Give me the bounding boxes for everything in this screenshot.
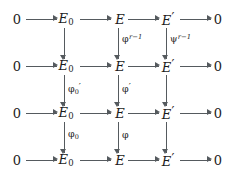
arrow-row2-eprime-to-zero bbox=[180, 62, 211, 70]
node-row4-zero-right: 0 bbox=[214, 154, 222, 167]
node-row2-e0: E0 bbox=[58, 59, 73, 74]
arrow-gap3-col-eprime bbox=[162, 122, 170, 153]
node-row2-e: E bbox=[115, 60, 125, 73]
arrow-row1-eprime-to-zero bbox=[180, 15, 211, 23]
arrow-gap2-col-e0 bbox=[60, 75, 68, 106]
label-gap1-col-e: φr−1 bbox=[122, 34, 142, 44]
arrow-row3-eprime-to-zero bbox=[180, 109, 211, 117]
node-row4-eprime: E′ bbox=[162, 152, 175, 167]
arrow-gap1-col-e0 bbox=[60, 28, 68, 59]
node-row4-e: E bbox=[115, 154, 125, 167]
commutative-diagram: 0 E0 E E′ 0 φr−1 ψr−1 0 E0 E E′ 0 φ0′ φ′… bbox=[0, 0, 229, 182]
label-gap2-col-e0: φ0′ bbox=[68, 82, 81, 95]
arrow-gap2-col-eprime bbox=[162, 75, 170, 106]
arrow-gap1-col-e bbox=[114, 28, 122, 59]
arrow-gap2-col-e bbox=[114, 75, 122, 106]
node-row1-eprime: E′ bbox=[162, 11, 175, 26]
label-gap2-col-e: φ′ bbox=[122, 82, 131, 93]
node-row1-e0: E0 bbox=[58, 12, 73, 27]
arrow-row4-zero-to-e0 bbox=[26, 156, 57, 164]
arrow-row3-e0-to-e bbox=[80, 109, 111, 117]
node-row4-e0: E0 bbox=[58, 153, 73, 168]
label-gap1-col-eprime: ψr−1 bbox=[170, 34, 191, 44]
arrow-row4-eprime-to-zero bbox=[180, 156, 211, 164]
node-row2-zero-right: 0 bbox=[214, 60, 222, 73]
arrow-gap3-col-e bbox=[114, 122, 122, 153]
arrow-gap3-col-e0 bbox=[60, 122, 68, 153]
label-gap3-col-e0: φ0 bbox=[68, 129, 79, 140]
arrow-row3-zero-to-e0 bbox=[26, 109, 57, 117]
arrow-row4-e-to-eprime bbox=[128, 156, 159, 164]
node-row3-e0: E0 bbox=[58, 106, 73, 121]
node-row3-e: E bbox=[115, 107, 125, 120]
arrow-row3-e-to-eprime bbox=[128, 109, 159, 117]
arrow-row1-zero-to-e0 bbox=[26, 15, 57, 23]
node-row1-zero-left: 0 bbox=[13, 13, 21, 26]
node-row2-zero-left: 0 bbox=[13, 60, 21, 73]
node-row3-eprime: E′ bbox=[162, 105, 175, 120]
arrow-gap1-col-eprime bbox=[162, 28, 170, 59]
arrow-row2-e-to-eprime bbox=[128, 62, 159, 70]
arrow-row1-e0-to-e bbox=[80, 15, 111, 23]
node-row1-zero-right: 0 bbox=[214, 13, 222, 26]
arrow-row2-e0-to-e bbox=[80, 62, 111, 70]
arrow-row1-e-to-eprime bbox=[128, 15, 159, 23]
node-row2-eprime: E′ bbox=[162, 58, 175, 73]
node-row4-zero-left: 0 bbox=[13, 154, 21, 167]
node-row1-e: E bbox=[115, 13, 125, 26]
node-row3-zero-left: 0 bbox=[13, 107, 21, 120]
node-row3-zero-right: 0 bbox=[214, 107, 222, 120]
label-gap3-col-e: φ bbox=[122, 130, 129, 140]
arrow-row2-zero-to-e0 bbox=[26, 62, 57, 70]
arrow-row4-e0-to-e bbox=[80, 156, 111, 164]
